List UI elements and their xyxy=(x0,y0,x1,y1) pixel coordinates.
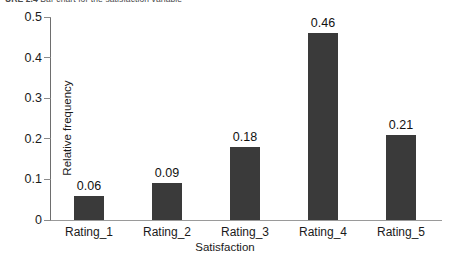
bar-value-label: 0.18 xyxy=(220,131,270,144)
y-axis-tick-label: 0.1 xyxy=(0,173,42,186)
bar-value-label: 0.06 xyxy=(64,180,114,193)
y-axis-tick-label: 0.5 xyxy=(0,11,42,24)
bar-value-label: 0.46 xyxy=(298,17,348,30)
y-axis-tick-label: 0.2 xyxy=(0,133,42,146)
y-axis-tick-label: 0.3 xyxy=(0,92,42,105)
bar[interactable] xyxy=(308,33,338,220)
bar[interactable] xyxy=(386,135,416,220)
plot-area: Relative frequency 0.060.090.180.460.21 xyxy=(50,17,440,220)
x-axis-tick-label: Rating_5 xyxy=(356,226,446,238)
x-axis-tick-label: Rating_3 xyxy=(200,226,290,238)
bar[interactable] xyxy=(152,183,182,220)
x-axis-tick-label: Rating_4 xyxy=(278,226,368,238)
y-axis-tick-label: 0.4 xyxy=(0,52,42,65)
y-axis-title: Relative frequency xyxy=(61,58,73,198)
bar-chart: 00.10.20.30.40.5 Relative frequency 0.06… xyxy=(0,0,450,253)
y-axis-tick-label: 0 xyxy=(0,214,42,227)
x-axis-title: Satisfaction xyxy=(0,241,450,253)
bar-value-label: 0.09 xyxy=(142,167,192,180)
x-axis-line xyxy=(50,220,442,221)
bar-value-label: 0.21 xyxy=(376,119,426,132)
bar[interactable] xyxy=(74,196,104,220)
x-axis-tick-label: Rating_1 xyxy=(44,226,134,238)
bar[interactable] xyxy=(230,147,260,220)
x-axis-tick-label: Rating_2 xyxy=(122,226,212,238)
